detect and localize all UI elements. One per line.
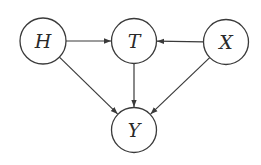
edge-x-to-y xyxy=(151,58,210,115)
graph-canvas: H T X Y xyxy=(0,0,261,165)
node-x: X xyxy=(204,20,249,65)
node-t-label: T xyxy=(128,30,142,52)
node-t: T xyxy=(112,19,157,64)
causal-diagram: H T X Y xyxy=(0,0,261,165)
node-y: Y xyxy=(112,108,157,153)
node-x-label: X xyxy=(217,31,234,53)
edge-h-to-y xyxy=(59,57,117,114)
edge-x-to-t xyxy=(157,41,204,42)
node-h-label: H xyxy=(34,30,52,52)
node-h: H xyxy=(20,18,66,64)
